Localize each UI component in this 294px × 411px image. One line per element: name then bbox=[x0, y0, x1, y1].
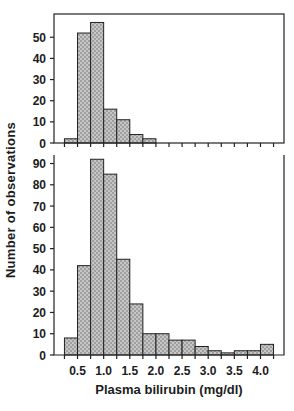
histogram-bar bbox=[64, 338, 77, 355]
x-tick-label: 1.5 bbox=[121, 364, 138, 378]
y-tick-label: 0 bbox=[39, 349, 46, 363]
histogram-bar bbox=[247, 351, 260, 355]
y-tick-label: 50 bbox=[33, 31, 47, 45]
stacked-histograms-canvas: 0102030405001020304050607080900.51.01.52… bbox=[0, 0, 294, 411]
histogram-bar bbox=[234, 351, 247, 355]
histogram-bar bbox=[117, 259, 130, 355]
y-tick-label: 80 bbox=[33, 178, 47, 192]
histogram-bar bbox=[182, 340, 195, 355]
histogram-bar bbox=[169, 340, 182, 355]
histogram-bar bbox=[64, 139, 77, 143]
y-tick-label: 0 bbox=[39, 137, 46, 151]
y-tick-label: 90 bbox=[33, 157, 47, 171]
x-axis-label: Plasma bilirubin (mg/dl) bbox=[54, 382, 284, 397]
y-tick-label: 30 bbox=[33, 285, 47, 299]
histogram-figure: Number of observations 01020304050010203… bbox=[0, 0, 294, 411]
y-tick-label: 40 bbox=[33, 263, 47, 277]
y-tick-label: 20 bbox=[33, 94, 47, 108]
histogram-bar bbox=[78, 266, 91, 355]
histogram-bar bbox=[143, 139, 156, 143]
y-tick-label: 40 bbox=[33, 52, 47, 66]
histogram-bar bbox=[195, 346, 208, 355]
x-tick-label: 3.5 bbox=[226, 364, 243, 378]
histogram-bar bbox=[104, 174, 117, 355]
y-tick-label: 50 bbox=[33, 242, 47, 256]
x-tick-label: 2.5 bbox=[174, 364, 191, 378]
histogram-bar bbox=[130, 304, 143, 355]
x-tick-label: 3.0 bbox=[200, 364, 217, 378]
histogram-bar bbox=[104, 109, 117, 143]
x-tick-label: 1.0 bbox=[95, 364, 112, 378]
histogram-bar bbox=[117, 120, 130, 143]
y-tick-label: 60 bbox=[33, 221, 47, 235]
histogram-bar bbox=[91, 159, 104, 355]
y-tick-label: 10 bbox=[33, 115, 47, 129]
x-tick-label: 4.0 bbox=[252, 364, 269, 378]
histogram-bar bbox=[130, 135, 143, 143]
y-tick-label: 70 bbox=[33, 200, 47, 214]
x-tick-label: 0.5 bbox=[69, 364, 86, 378]
histogram-bar bbox=[91, 22, 104, 143]
histogram-bar bbox=[260, 344, 273, 355]
histogram-bar bbox=[156, 334, 169, 355]
histogram-bar bbox=[208, 351, 221, 355]
y-tick-label: 30 bbox=[33, 73, 47, 87]
histogram-bar bbox=[78, 33, 91, 143]
x-tick-label: 2.0 bbox=[148, 364, 165, 378]
y-tick-label: 20 bbox=[33, 306, 47, 320]
histogram-bar bbox=[143, 334, 156, 355]
y-tick-label: 10 bbox=[33, 327, 47, 341]
